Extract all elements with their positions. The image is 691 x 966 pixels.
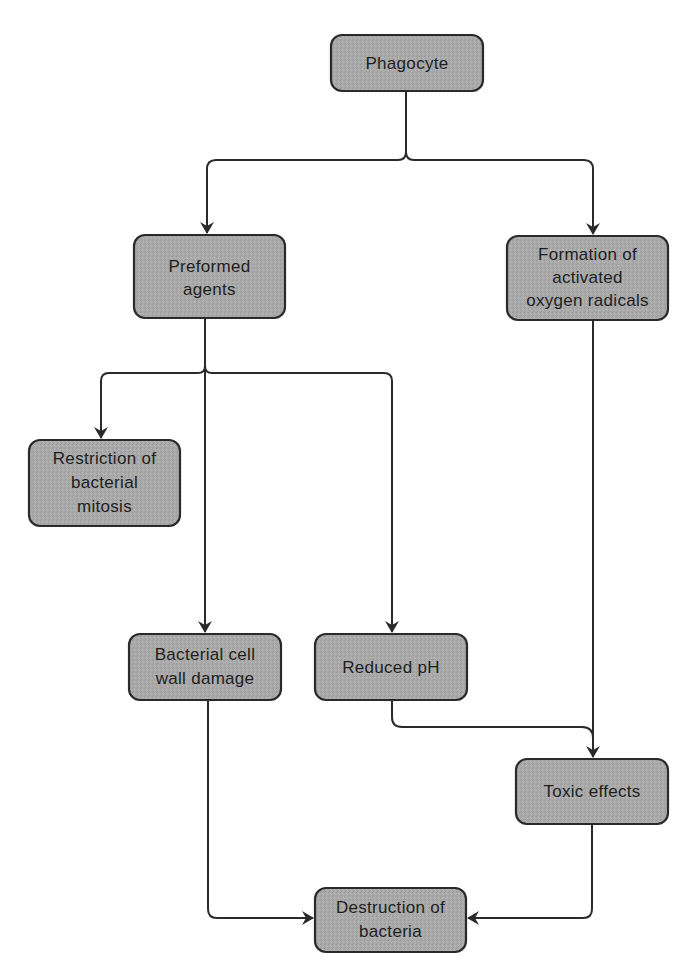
node-phagocyte: Phagocyte	[331, 35, 483, 91]
node-reduced-ph: Reduced pH	[315, 634, 467, 700]
node-label-line-2: bacteria	[359, 922, 422, 941]
edge-reduced-ph-to-toxic-effects	[392, 700, 593, 738]
node-label-line-3: mitosis	[77, 497, 132, 516]
node-label-line-1: Formation of	[538, 245, 637, 264]
node-oxygen-radicals: Formation of activated oxygen radicals	[507, 236, 668, 320]
node-label-line-2: wall damage	[155, 669, 255, 688]
node-toxic-effects: Toxic effects	[516, 759, 668, 824]
edge-phagocyte-to-oxygen-radicals	[406, 152, 593, 234]
edge-phagocyte-to-preformed-agents	[207, 91, 406, 233]
flowchart-canvas: Phagocyte Preformed agents Formation of …	[0, 0, 691, 966]
edge-cell-wall-to-destruction	[208, 700, 313, 918]
node-label: Phagocyte	[365, 54, 448, 73]
edge-toxic-effects-to-destruction	[468, 824, 592, 918]
node-label-line-1: Bacterial cell	[155, 645, 256, 664]
node-label-line-2: activated	[552, 268, 623, 287]
edge-preformed-to-reduced-ph	[205, 366, 392, 632]
node-restriction-mitosis: Restriction of bacterial mitosis	[29, 440, 180, 526]
node-label: Toxic effects	[543, 782, 640, 801]
node-label-line-2: bacterial	[71, 473, 138, 492]
node-label-line-1: Restriction of	[53, 449, 156, 468]
node-label-line-3: oxygen radicals	[526, 291, 649, 310]
node-label: Reduced pH	[342, 658, 440, 677]
node-label-line-1: Preformed	[168, 257, 250, 276]
node-preformed-agents: Preformed agents	[134, 235, 285, 318]
node-cell-wall-damage: Bacterial cell wall damage	[129, 634, 281, 700]
node-label-line-1: Destruction of	[336, 898, 445, 917]
node-label-line-2: agents	[183, 280, 236, 299]
edge-preformed-to-restriction	[101, 318, 205, 438]
node-destruction-of-bacteria: Destruction of bacteria	[315, 888, 466, 952]
